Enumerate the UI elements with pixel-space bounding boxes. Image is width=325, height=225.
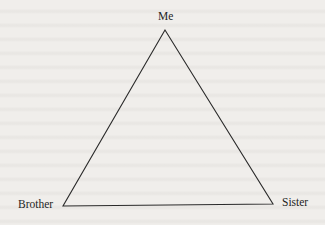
node-label-me: Me — [158, 11, 173, 23]
edge-me-sister — [165, 30, 273, 204]
node-label-brother: Brother — [18, 199, 53, 211]
triangle-outline — [63, 30, 273, 206]
edge-brother-sister — [63, 204, 273, 206]
relationship-triangle — [0, 0, 325, 225]
edge-me-brother — [63, 30, 165, 206]
book-page: Me Brother Sister — [0, 0, 325, 225]
node-label-sister: Sister — [282, 197, 308, 209]
